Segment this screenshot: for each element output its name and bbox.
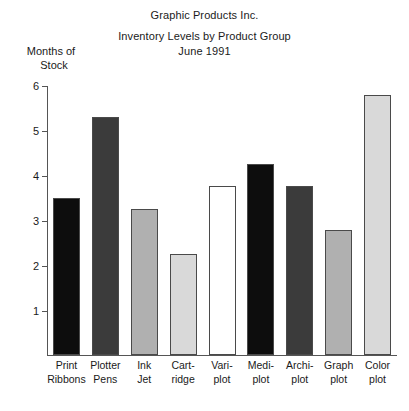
x-axis-label-line: Medi-	[241, 358, 280, 372]
chart-title: Inventory Levels by Product Group	[0, 29, 409, 44]
bar	[247, 164, 274, 355]
x-axis-label-line: Graph	[319, 358, 358, 372]
y-axis-caption-line-1: Months of	[8, 44, 94, 58]
x-axis-label-line: Cart-	[164, 358, 203, 372]
bar-chart: Graphic Products Inc. Inventory Levels b…	[0, 0, 409, 411]
bar	[325, 230, 352, 355]
x-axis-label-line: plot	[280, 372, 319, 386]
bar	[364, 95, 391, 355]
x-axis-label-line: ridge	[164, 372, 203, 386]
x-axis-label-line: Plotter	[86, 358, 125, 372]
x-axis-label: Medi-plot	[241, 358, 280, 386]
x-axis-label-line: plot	[358, 372, 397, 386]
chart-supertitle: Graphic Products Inc.	[0, 8, 409, 23]
x-axis-label-line: Jet	[125, 372, 164, 386]
x-axis-label-line: plot	[203, 372, 242, 386]
y-axis-caption: Months of Stock	[8, 44, 94, 72]
x-axis-label: PlotterPens	[86, 358, 125, 386]
x-axis-label-line: Ink	[125, 358, 164, 372]
x-axis-label-line: Print	[47, 358, 86, 372]
x-axis-labels: PrintRibbonsPlotterPensInkJetCart-ridgeV…	[47, 358, 397, 408]
x-axis-label-line: Color	[358, 358, 397, 372]
x-axis-label: Cart-ridge	[164, 358, 203, 386]
bar	[53, 198, 80, 356]
x-axis-label: Graphplot	[319, 358, 358, 386]
y-axis-caption-line-2: Stock	[8, 58, 94, 72]
bar	[131, 209, 158, 355]
y-tick-label: 3	[33, 216, 39, 227]
x-axis-label-line: plot	[241, 372, 280, 386]
y-tick-label: 4	[33, 171, 39, 182]
bar	[170, 254, 197, 355]
x-axis-label-line: Ribbons	[47, 372, 86, 386]
y-tick-label: 1	[33, 306, 39, 317]
x-axis-label: InkJet	[125, 358, 164, 386]
y-tick-label: 5	[33, 126, 39, 137]
bar	[92, 117, 119, 356]
y-tick-label: 2	[33, 261, 39, 272]
x-axis-label: PrintRibbons	[47, 358, 86, 386]
x-axis-label-line: Archi-	[280, 358, 319, 372]
x-axis-label: Archi-plot	[280, 358, 319, 386]
x-axis-label-line: Vari-	[203, 358, 242, 372]
bar	[286, 186, 313, 355]
x-axis-label-line: Pens	[86, 372, 125, 386]
bars-layer	[47, 86, 397, 356]
plot-area: 123456	[47, 86, 397, 356]
x-axis-label: Colorplot	[358, 358, 397, 386]
x-axis-label: Vari-plot	[203, 358, 242, 386]
y-tick-label: 6	[33, 81, 39, 92]
x-axis-label-line: plot	[319, 372, 358, 386]
bar	[209, 186, 236, 355]
